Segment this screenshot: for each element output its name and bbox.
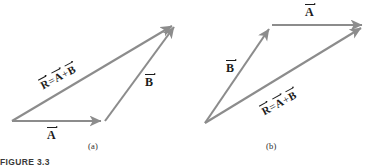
figure-number-caption: FIGURE 3.3 [0, 157, 50, 167]
vector-b-arrow-panel-b [205, 29, 269, 123]
subcaption-panel-a: (a) [88, 141, 98, 151]
vector-b-label-panel-b: B [226, 60, 234, 74]
vector-a-label-panel-a: A [47, 127, 56, 141]
subcaption-panel-b: (b) [266, 141, 277, 151]
resultant-r-arrow-panel-b [205, 28, 361, 123]
vector-a-glyph-panel-b: A [305, 4, 314, 18]
vector-b-glyph-panel-a: B [145, 74, 153, 88]
vector-a-label-panel-b: A [305, 4, 314, 18]
vector-a-glyph-panel-a: A [47, 127, 56, 141]
vector-b-arrow-panel-a [105, 27, 174, 121]
vector-b-label-panel-a: B [145, 74, 153, 88]
vector-b-glyph-panel-b: B [226, 60, 234, 74]
